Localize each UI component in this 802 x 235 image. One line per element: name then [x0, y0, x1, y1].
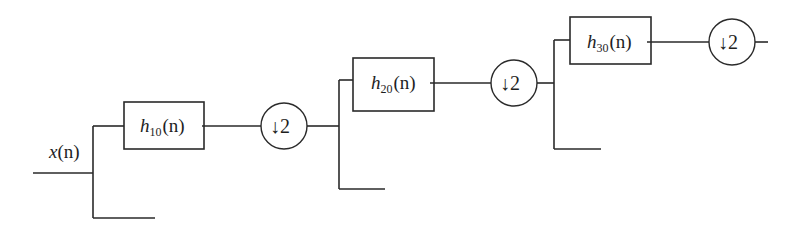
- filter-h10-label: h10(n): [140, 115, 185, 139]
- filter-bank-diagram: x(n) h10(n) ↓2 h20(n) ↓2: [0, 0, 802, 235]
- filter-h20-label: h20(n): [371, 72, 416, 96]
- stage-1: h10(n) ↓2: [124, 102, 339, 149]
- downsampler-3-label: ↓2: [718, 31, 738, 53]
- stage-2: h20(n) ↓2: [353, 58, 554, 111]
- stage-3: h30(n) ↓2: [570, 17, 768, 65]
- input-label: x(n): [48, 141, 80, 163]
- downsampler-2-label: ↓2: [500, 72, 520, 94]
- filter-h30-label: h30(n): [587, 31, 632, 55]
- downsampler-1-label: ↓2: [270, 115, 290, 137]
